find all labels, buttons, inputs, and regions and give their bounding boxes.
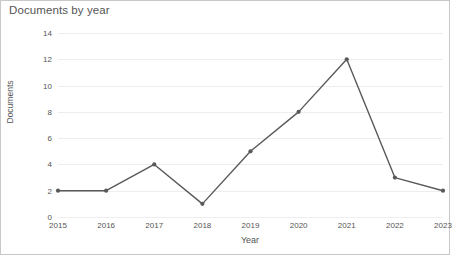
data-point-marker: 2016: 2 — [104, 189, 108, 193]
y-tick-label: 8 — [48, 107, 52, 116]
data-point-marker: 2022: 3 — [393, 175, 397, 179]
y-tick-label: 14 — [43, 29, 52, 38]
y-axis-title: Documents — [5, 67, 15, 137]
data-point-marker: 2019: 5 — [248, 149, 252, 153]
x-tick-label: 2016 — [97, 221, 115, 230]
x-tick-label: 2018 — [193, 221, 211, 230]
x-tick-label: 2020 — [290, 221, 308, 230]
data-point-marker: 2021: 12 — [345, 57, 349, 61]
y-tick-label: 10 — [43, 81, 52, 90]
data-point-marker: 2015: 2 — [56, 189, 60, 193]
x-tick-label: 2019 — [242, 221, 260, 230]
x-tick-label: 2015 — [49, 221, 67, 230]
data-point-marker: 2023: 2 — [441, 189, 445, 193]
x-tick-label: 2022 — [386, 221, 404, 230]
data-point-marker: 2020: 8 — [297, 110, 301, 114]
series-line — [58, 59, 443, 204]
line-series: 2015: 22016: 22017: 42018: 12019: 52020:… — [58, 33, 443, 217]
x-axis-title: Year — [57, 235, 443, 245]
x-tick-label: 2021 — [338, 221, 356, 230]
x-tick-label: 2017 — [145, 221, 163, 230]
chart-title: Documents by year — [9, 4, 110, 16]
y-tick-label: 12 — [43, 55, 52, 64]
gridline — [58, 217, 443, 218]
data-point-marker: 2018: 1 — [200, 202, 204, 206]
y-tick-label: 4 — [48, 160, 52, 169]
plot-area: 02468101214 2015201620172018201920202021… — [58, 33, 443, 217]
y-tick-label: 2 — [48, 186, 52, 195]
y-tick-label: 6 — [48, 134, 52, 143]
data-point-marker: 2017: 4 — [152, 162, 156, 166]
x-tick-label: 2023 — [434, 221, 452, 230]
